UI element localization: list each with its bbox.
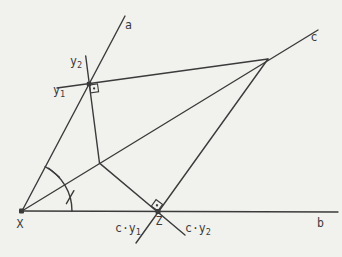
construction-figure-svg: abcXZy2y1c·y1c·y2	[0, 0, 342, 257]
point-X	[19, 209, 24, 214]
label-line-c: c	[311, 30, 318, 44]
point-y	[87, 82, 92, 87]
right-angle-y-point-dot	[93, 87, 96, 90]
line-c	[22, 30, 318, 211]
label-c-y2: c·y2	[185, 221, 211, 237]
label-line-a: a	[125, 18, 132, 32]
line-a	[22, 16, 125, 211]
label-y1: y1	[53, 83, 65, 99]
angle-tick-lower	[66, 191, 74, 204]
line-b	[22, 211, 338, 212]
label-point-X: X	[17, 217, 24, 231]
label-y2: y2	[70, 54, 82, 70]
angle-tick-upper	[49, 168, 60, 177]
label-line-b: b	[317, 216, 324, 230]
segment-y2-to-junction	[86, 56, 100, 163]
construction-diagram: abcXZy2y1c·y1c·y2	[0, 0, 342, 257]
label-point-Z: Z	[156, 214, 163, 228]
label-c-y1: c·y1	[115, 221, 141, 237]
segment-junction-to-cy2	[100, 163, 186, 235]
right-angle-Z-dot	[155, 204, 158, 207]
